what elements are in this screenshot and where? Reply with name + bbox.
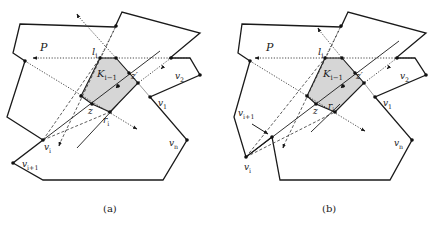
dashed-line xyxy=(246,112,335,157)
vertex-point xyxy=(23,59,27,63)
solid-line xyxy=(77,104,118,148)
point-label: z xyxy=(87,106,93,116)
vertex-point xyxy=(341,84,345,88)
dotted-ray xyxy=(138,58,171,83)
vertex-point xyxy=(11,161,15,165)
arrowhead-icon xyxy=(283,145,284,148)
panel-caption: (a) xyxy=(103,203,117,214)
point-label: vi+1 xyxy=(238,108,254,120)
point-label: v2 xyxy=(400,71,409,83)
kernel-construction-figure: PliKi−1z′v2v1zrivnvivi+1(a) PliKi−1z′v2v… xyxy=(0,0,434,233)
vertex-point xyxy=(114,56,118,60)
point-label: vi xyxy=(44,142,51,154)
vertex-point xyxy=(148,95,152,99)
point-label: ri xyxy=(103,115,109,127)
vertex-point xyxy=(248,59,252,63)
vertex-point xyxy=(98,56,102,60)
kernel-region xyxy=(81,58,138,112)
arrowhead-icon xyxy=(135,128,137,129)
thin-line xyxy=(364,83,375,97)
panel-b: PliKi−1z′v2v1zrivnvivi+1(b) xyxy=(234,12,428,214)
panel-caption: (b) xyxy=(322,203,336,214)
vertex-point xyxy=(323,56,327,60)
vertex-point xyxy=(114,24,118,28)
point-label: P xyxy=(265,41,274,54)
arrowhead-icon xyxy=(387,67,389,69)
vertex-point xyxy=(198,73,202,77)
vertex-point xyxy=(395,56,399,60)
arrowhead-icon xyxy=(318,28,319,30)
point-label: z xyxy=(312,106,318,116)
vertex-point xyxy=(424,73,428,77)
dotted-ray xyxy=(364,58,397,83)
vertex-point xyxy=(270,135,274,139)
point-label: li xyxy=(92,46,98,60)
vertex-point xyxy=(244,155,248,159)
vertex-point xyxy=(339,24,343,28)
vertex-point xyxy=(185,138,189,142)
point-label: z′ xyxy=(355,71,363,81)
vertex-point xyxy=(305,94,309,98)
vertex-point xyxy=(79,94,83,98)
point-label: z′ xyxy=(130,71,138,81)
point-label: P xyxy=(39,41,48,54)
panel-a: PliKi−1z′v2v1zrivnvivi+1(a) xyxy=(7,12,202,214)
arrowhead-icon xyxy=(77,14,78,16)
vertex-point xyxy=(136,81,140,85)
vertex-point xyxy=(169,56,173,60)
thin-line xyxy=(138,83,150,97)
vertex-point xyxy=(362,81,366,85)
vertex-point xyxy=(340,56,344,60)
arrowhead-icon xyxy=(363,130,365,131)
arrowhead-icon xyxy=(161,67,163,69)
point-label: v2 xyxy=(175,71,184,83)
vertex-point xyxy=(373,95,377,99)
arrowhead-icon xyxy=(59,143,60,146)
vertex-point xyxy=(108,110,112,114)
vertex-point xyxy=(116,84,120,88)
vertex-point xyxy=(410,138,414,142)
point-label: vn xyxy=(394,138,403,150)
point-label: vn xyxy=(169,138,178,150)
callout-arrow-icon xyxy=(252,124,268,134)
point-label: vi xyxy=(244,162,251,174)
